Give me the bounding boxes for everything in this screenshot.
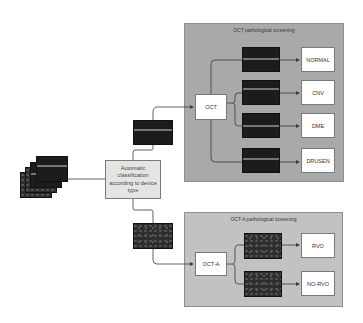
no-rvo-example-image bbox=[244, 271, 282, 297]
dme-example-image bbox=[242, 113, 280, 138]
cnv-example-image bbox=[242, 80, 280, 105]
class-drusen: DRUSEN bbox=[301, 148, 335, 173]
normal-example-image bbox=[242, 47, 280, 72]
class-rvo: RVO bbox=[301, 233, 335, 258]
drusen-example-image bbox=[242, 148, 280, 173]
class-no-rvo: NO-RVO bbox=[301, 271, 335, 296]
octa-sample-image bbox=[133, 223, 173, 249]
class-dme: DME bbox=[301, 113, 335, 138]
oct-sample-image bbox=[133, 120, 173, 145]
oct-device-node: OCT bbox=[195, 94, 227, 120]
octa-device-node: OCT-A bbox=[195, 252, 227, 276]
class-normal: NORMAL bbox=[301, 47, 335, 72]
device-classification-node: Automatic classification according to de… bbox=[105, 160, 161, 199]
input-image-1 bbox=[36, 156, 68, 182]
class-cnv: CNV bbox=[301, 80, 335, 105]
rvo-example-image bbox=[244, 233, 282, 259]
